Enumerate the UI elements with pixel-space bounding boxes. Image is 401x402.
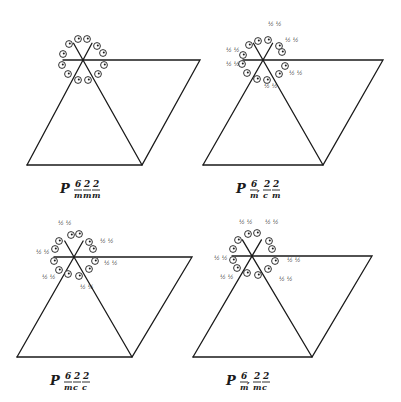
equivalent-point <box>279 49 286 56</box>
equivalent-point <box>94 43 101 50</box>
space-group-symbol: P6m2m2m <box>59 179 100 200</box>
svg-text:m: m <box>83 190 91 200</box>
svg-text:c: c <box>263 190 268 200</box>
equivalent-point <box>56 238 63 245</box>
left-edge <box>17 241 83 357</box>
height-fraction-label: ½ ½ <box>226 46 240 53</box>
space-group-diagram: P6m2m2m½ ½½ ½½ ½½ ½½ ½½ ½P6,m2c2m½ ½½ ½½… <box>0 0 401 402</box>
svg-text:2: 2 <box>92 179 99 189</box>
svg-text:2: 2 <box>73 371 80 381</box>
equivalent-point <box>246 42 253 49</box>
height-fraction-label: ½ ½ <box>104 259 118 266</box>
equivalent-point <box>76 273 83 280</box>
equivalent-point <box>75 36 82 43</box>
equivalent-point <box>255 38 262 45</box>
height-fraction-label: ½ ½ <box>285 36 299 43</box>
equivalent-point <box>60 51 67 58</box>
svg-text:2: 2 <box>272 179 279 189</box>
space-group-symbol: P6,m2m2c <box>225 371 270 392</box>
height-fraction-label: ½ ½ <box>279 275 293 282</box>
svg-text:m: m <box>272 190 280 200</box>
equivalent-point <box>234 265 241 272</box>
height-fraction-label: ½ ½ <box>289 69 303 76</box>
panel-p6-mcc: ½ ½½ ½½ ½½ ½½ ½½ ½P6m2c2c <box>17 219 192 392</box>
equivalent-point <box>255 272 262 279</box>
equivalent-point <box>266 238 273 245</box>
height-fraction-label: ½ ½ <box>264 82 278 89</box>
equivalent-point <box>84 36 91 43</box>
height-fraction-label: ½ ½ <box>239 218 253 225</box>
equivalent-point <box>86 266 93 273</box>
panel-p6-3-mcm: ½ ½½ ½½ ½½ ½½ ½½ ½P6,m2c2m <box>203 20 383 200</box>
height-fraction-label: ½ ½ <box>58 219 72 226</box>
equivalent-point <box>230 246 237 253</box>
height-fraction-label: ½ ½ <box>268 20 282 27</box>
panel-p6-mmm: P6m2m2m <box>27 36 200 200</box>
equivalent-point <box>265 266 272 273</box>
equivalent-point <box>244 270 251 277</box>
unit-cell-outline <box>17 257 192 357</box>
height-fraction-label: ½ ½ <box>36 248 50 255</box>
equivalent-point <box>100 50 107 57</box>
equivalent-point <box>254 76 261 83</box>
equivalent-point <box>59 62 66 69</box>
equivalent-point <box>272 258 279 265</box>
svg-text:P: P <box>59 181 71 196</box>
svg-text:P: P <box>49 373 61 388</box>
svg-text:P: P <box>235 181 247 196</box>
svg-text:m: m <box>92 190 100 200</box>
equivalent-point <box>244 70 251 77</box>
inner-diagonal <box>74 43 142 165</box>
equivalent-point <box>85 77 92 84</box>
inner-diagonal <box>242 240 312 357</box>
equivalent-point <box>86 239 93 246</box>
equivalent-point <box>240 52 247 59</box>
svg-text:6: 6 <box>75 179 82 189</box>
equivalent-point <box>95 71 102 78</box>
equivalent-point <box>245 231 252 238</box>
svg-text:m: m <box>253 382 261 392</box>
svg-text:P: P <box>225 373 237 388</box>
equivalent-point <box>51 258 58 265</box>
equivalent-point <box>65 271 72 278</box>
height-fraction-label: ½ ½ <box>42 273 56 280</box>
equivalent-point <box>254 230 261 237</box>
height-fraction-label: ½ ½ <box>220 273 234 280</box>
space-group-symbol: P6,m2c2m <box>235 179 280 200</box>
unit-cell-outline <box>27 60 200 165</box>
svg-text:c: c <box>73 382 78 392</box>
height-fraction-label: ½ ½ <box>287 256 301 263</box>
equivalent-point <box>101 62 108 69</box>
svg-text:6: 6 <box>65 371 72 381</box>
svg-text:2: 2 <box>83 179 90 189</box>
equivalent-point <box>75 77 82 84</box>
equivalent-point <box>265 37 272 44</box>
equivalent-point <box>66 41 73 48</box>
equivalent-point <box>230 257 237 264</box>
equivalent-point <box>239 61 246 68</box>
svg-text:2: 2 <box>262 371 269 381</box>
equivalent-point <box>76 231 83 238</box>
height-fraction-label: ½ ½ <box>214 254 228 261</box>
inner-diagonal <box>253 43 323 165</box>
height-fraction-label: ½ ½ <box>226 60 240 67</box>
equivalent-point <box>90 246 97 253</box>
height-fraction-label: ½ ½ <box>80 283 94 290</box>
equivalent-point <box>68 232 75 239</box>
equivalent-point <box>282 63 289 70</box>
space-group-symbol: P6m2c2c <box>49 371 90 392</box>
svg-text:m: m <box>74 190 82 200</box>
left-edge <box>27 43 92 165</box>
equivalent-point <box>92 258 99 265</box>
panel-p6-3-mmc: ½ ½½ ½½ ½½ ½½ ½½ ½P6,m2m2c <box>193 218 372 392</box>
svg-text:m: m <box>250 190 258 200</box>
svg-text:2: 2 <box>82 371 89 381</box>
equivalent-point <box>235 237 242 244</box>
equivalent-point <box>52 246 59 253</box>
equivalent-point <box>56 267 63 274</box>
svg-text:2: 2 <box>263 179 270 189</box>
svg-text:m: m <box>240 382 248 392</box>
equivalent-point <box>276 71 283 78</box>
inner-diagonal <box>65 241 132 357</box>
svg-text:c: c <box>262 382 267 392</box>
